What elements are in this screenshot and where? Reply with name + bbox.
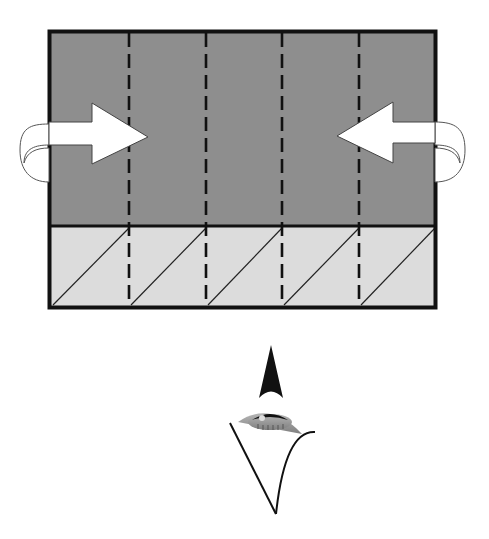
paper-sheet — [49, 32, 436, 308]
folding-diagram — [0, 0, 489, 539]
view-indicator — [230, 345, 315, 514]
eye-icon — [230, 413, 315, 514]
arrowhead-up-icon — [259, 345, 283, 398]
lower-panel — [50, 226, 435, 307]
